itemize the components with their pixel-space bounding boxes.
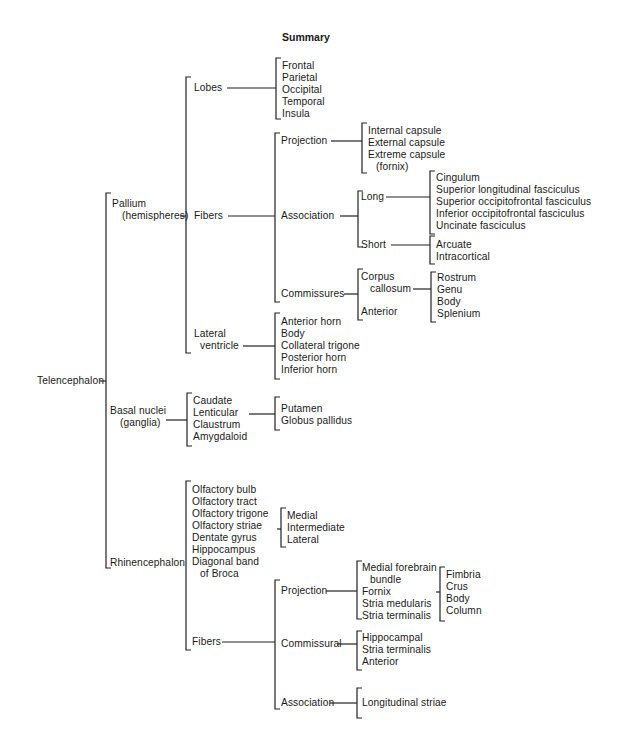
basal-item: Amygdaloid bbox=[193, 431, 247, 443]
rhin-projection-item: Fornix bbox=[362, 586, 391, 598]
lobe-item: Parietal bbox=[282, 72, 317, 84]
fornix-item: Fimbria bbox=[446, 569, 481, 581]
node-ganglia: (ganglia) bbox=[120, 417, 161, 429]
lenticular-item: Globus pallidus bbox=[281, 415, 352, 427]
node-commissures: Commissures bbox=[281, 288, 344, 300]
striae-item: Lateral bbox=[287, 534, 319, 546]
short-item: Arcuate bbox=[436, 239, 472, 251]
rhin-item: Olfactory striae bbox=[192, 520, 262, 532]
node-fibers: Fibers bbox=[194, 210, 223, 222]
short-item: Intracortical bbox=[436, 251, 490, 263]
projection-item: (fornix) bbox=[376, 161, 409, 173]
projection-item: Internal capsule bbox=[368, 125, 442, 137]
fornix-item: Body bbox=[446, 593, 470, 605]
association-item: Longitudinal striae bbox=[362, 697, 447, 709]
projection-item: Extreme capsule bbox=[368, 149, 445, 161]
node-lateral: Lateral bbox=[194, 328, 226, 340]
node-telencephalon: Telencephalon bbox=[37, 375, 104, 387]
rhin-item: Dentate gyrus bbox=[192, 532, 257, 544]
rhin-item: Diagonal band bbox=[192, 556, 259, 568]
ventricle-item: Inferior horn bbox=[281, 364, 337, 376]
basal-item: Caudate bbox=[193, 395, 232, 407]
fornix-item: Crus bbox=[446, 581, 468, 593]
node-rhin-projection: Projection bbox=[281, 585, 327, 597]
long-item: Cingulum bbox=[436, 172, 480, 184]
node-projection: Projection bbox=[281, 135, 327, 147]
summary-title: Summary bbox=[282, 31, 330, 43]
node-association: Association bbox=[281, 210, 334, 222]
telencephalon-summary-diagram: Summary Telencephalon Pallium (hemispher… bbox=[0, 0, 619, 750]
ventricle-item: Body bbox=[281, 328, 305, 340]
long-item: Superior occipitofrontal fasciculus bbox=[436, 196, 591, 208]
commissural-item: Hippocampal bbox=[362, 632, 423, 644]
striae-item: Intermediate bbox=[287, 522, 345, 534]
callosum-item: Rostrum bbox=[437, 272, 476, 284]
node-callosum: callosum bbox=[370, 283, 411, 295]
striae-item: Medial bbox=[287, 510, 318, 522]
node-rhin-association: Association bbox=[281, 697, 334, 709]
node-pallium-sub: (hemispheres) bbox=[122, 210, 188, 222]
commissural-item: Anterior bbox=[362, 656, 398, 668]
node-ventricle: ventricle bbox=[200, 340, 239, 352]
ventricle-item: Posterior horn bbox=[281, 352, 346, 364]
lobe-item: Insula bbox=[282, 108, 310, 120]
rhin-projection-item: Stria terminalis bbox=[362, 610, 431, 622]
node-pallium: Pallium bbox=[112, 198, 146, 210]
rhin-item: Olfactory bulb bbox=[192, 484, 256, 496]
lobe-item: Frontal bbox=[282, 60, 314, 72]
lobe-item: Temporal bbox=[282, 96, 325, 108]
node-anterior-commissure: Anterior bbox=[361, 306, 397, 318]
basal-item: Claustrum bbox=[193, 419, 240, 431]
rhin-item: Olfactory tract bbox=[192, 496, 257, 508]
rhin-projection-item: Stria medularis bbox=[362, 598, 431, 610]
fornix-item: Column bbox=[446, 605, 482, 617]
projection-item: External capsule bbox=[368, 137, 445, 149]
ventricle-item: Collateral trigone bbox=[281, 340, 360, 352]
long-item: Inferior occipitofrontal fasciculus bbox=[436, 208, 584, 220]
lobe-item: Occipital bbox=[282, 84, 322, 96]
basal-item: Lenticular bbox=[193, 407, 238, 419]
commissural-item: Stria terminalis bbox=[362, 644, 431, 656]
long-item: Uncinate fasciculus bbox=[436, 220, 526, 232]
callosum-item: Body bbox=[437, 296, 461, 308]
long-item: Superior longitudinal fasciculus bbox=[436, 184, 580, 196]
lenticular-item: Putamen bbox=[281, 403, 322, 415]
node-commissural: Commissural bbox=[281, 638, 342, 650]
rhin-item: Olfactory trigone bbox=[192, 508, 268, 520]
node-lobes: Lobes bbox=[194, 82, 222, 94]
rhin-projection-item: Medial forebrain bbox=[362, 562, 437, 574]
node-short: Short bbox=[361, 239, 386, 251]
ventricle-item: Anterior horn bbox=[281, 316, 341, 328]
rhin-item: of Broca bbox=[200, 568, 239, 580]
callosum-item: Splenium bbox=[437, 308, 480, 320]
node-rhin-fibers: Fibers bbox=[192, 636, 221, 648]
node-long: Long bbox=[361, 191, 384, 203]
node-basal-nuclei: Basal nuclei bbox=[110, 405, 166, 417]
node-corpus: Corpus bbox=[361, 271, 394, 283]
callosum-item: Genu bbox=[437, 284, 462, 296]
rhin-item: Hippocampus bbox=[192, 544, 255, 556]
node-rhinencephalon: Rhinencephalon bbox=[110, 557, 185, 569]
rhin-projection-item: bundle bbox=[370, 574, 401, 586]
